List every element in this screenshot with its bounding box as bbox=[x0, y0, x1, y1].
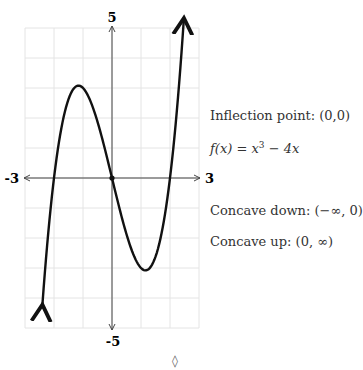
y-max-label: 5 bbox=[107, 10, 116, 25]
function-suffix: − 4x bbox=[265, 141, 300, 156]
concave-up-note: Concave up: (0, ∞) bbox=[210, 234, 333, 249]
function-curve bbox=[42, 18, 184, 305]
function-prefix: f(x) = x bbox=[210, 141, 259, 156]
y-min-label: -5 bbox=[106, 334, 120, 349]
diamond-icon: ◊ bbox=[172, 354, 178, 368]
x-max-label: 3 bbox=[205, 171, 214, 186]
x-min-label: -3 bbox=[5, 171, 19, 186]
inflection-point-marker bbox=[109, 175, 114, 180]
function-definition-note: f(x) = x3 − 4x bbox=[210, 140, 299, 156]
inflection-point-note: Inflection point: (0,0) bbox=[210, 108, 350, 123]
concave-down-note: Concave down: (−∞, 0) bbox=[210, 203, 363, 218]
